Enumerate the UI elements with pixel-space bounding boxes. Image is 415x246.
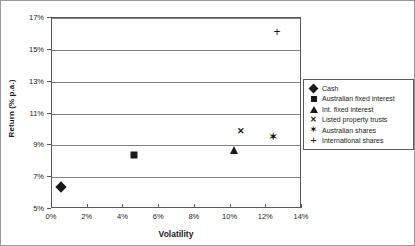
data-point-diamond: [55, 181, 66, 192]
data-point-star: ✶: [269, 132, 277, 142]
legend-label: International shares: [320, 137, 383, 144]
legend-item[interactable]: ✕Listed property trusts: [307, 115, 411, 125]
x-tick-mark: [194, 204, 195, 208]
x-tick-mark: [51, 204, 52, 208]
legend-label: Australian fixed interest: [320, 95, 395, 102]
data-point-cross: ✕: [237, 127, 245, 136]
y-tick-label: 17%: [3, 13, 49, 22]
legend-marker-cross-icon: ✕: [307, 115, 320, 125]
legend-marker-triangle-icon: [307, 104, 320, 114]
y-tick-label: 11%: [3, 108, 49, 117]
chart-legend: CashAustralian fixed interestInt. fixed …: [303, 79, 414, 150]
x-tick-label: 12%: [258, 212, 273, 221]
legend-item[interactable]: ✶Australian shares: [307, 125, 411, 135]
x-axis-title: Volatility: [51, 229, 301, 239]
gridline: [52, 18, 300, 19]
x-tick-mark: [265, 204, 266, 208]
x-tick-label: 0%: [46, 212, 57, 221]
legend-label: Cash: [320, 85, 338, 92]
legend-label: Listed property trusts: [320, 116, 387, 123]
x-tick-label: 10%: [222, 212, 237, 221]
y-tick-mark: [47, 208, 51, 209]
legend-label: Australian shares: [320, 127, 376, 134]
legend-item[interactable]: Cash: [307, 83, 411, 93]
x-tick-mark: [122, 204, 123, 208]
legend-marker-plus-icon: +: [307, 136, 320, 146]
x-tick-label: 2%: [81, 212, 92, 221]
x-tick-mark: [230, 204, 231, 208]
gridline: [52, 177, 300, 178]
x-tick-mark: [158, 204, 159, 208]
chart-container: Return (% p.a.) ✕✶+ Volatility CashAustr…: [0, 0, 415, 246]
x-tick-label: 14%: [293, 212, 308, 221]
x-tick-mark: [87, 204, 88, 208]
y-tick-label: 5%: [3, 204, 49, 213]
x-tick-label: 6%: [153, 212, 164, 221]
y-tick-label: 7%: [3, 172, 49, 181]
y-tick-mark: [47, 144, 51, 145]
y-tick-mark: [47, 17, 51, 18]
y-tick-mark: [47, 113, 51, 114]
legend-marker-diamond-icon: [307, 83, 320, 93]
gridline: [52, 82, 300, 83]
gridline: [52, 114, 300, 115]
x-tick-label: 8%: [188, 212, 199, 221]
legend-item[interactable]: +International shares: [307, 136, 411, 146]
data-point-square: [131, 151, 138, 158]
legend-label: Int. fixed interest: [320, 106, 373, 113]
legend-item[interactable]: Int. fixed interest: [307, 104, 411, 114]
x-tick-mark: [301, 204, 302, 208]
x-tick-label: 4%: [117, 212, 128, 221]
plot-area: ✕✶+: [51, 17, 301, 208]
y-tick-mark: [47, 81, 51, 82]
data-point-triangle: [230, 146, 238, 154]
y-tick-label: 15%: [3, 44, 49, 53]
gridline: [52, 50, 300, 51]
legend-marker-square-icon: [307, 94, 320, 104]
y-tick-mark: [47, 49, 51, 50]
y-tick-label: 9%: [3, 140, 49, 149]
y-tick-mark: [47, 176, 51, 177]
legend-item[interactable]: Australian fixed interest: [307, 94, 411, 104]
data-point-plus: +: [273, 26, 280, 38]
gridline: [52, 145, 300, 146]
y-tick-label: 13%: [3, 76, 49, 85]
